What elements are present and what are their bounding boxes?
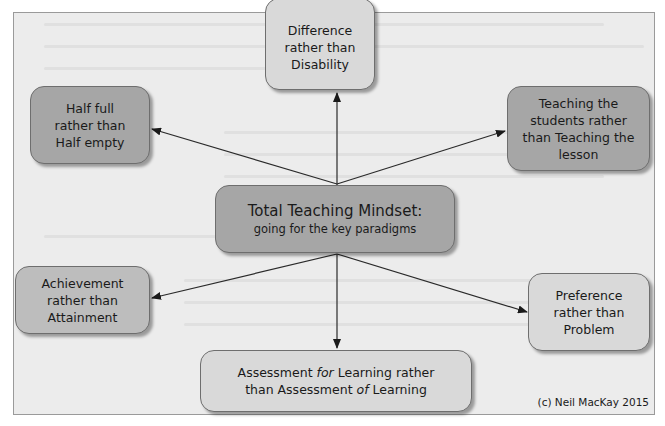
arrow-to-achievement	[152, 254, 337, 298]
node-text: students rather	[530, 112, 627, 129]
node-text: Achievement	[41, 275, 123, 292]
node-text: rather than	[55, 117, 126, 134]
node-text: Teaching the	[539, 95, 618, 112]
node-text: Difference	[288, 22, 352, 39]
node-text: Problem	[563, 321, 614, 338]
node-teaching: Teaching the students rather than Teachi…	[507, 86, 650, 171]
node-text: lesson	[559, 146, 599, 163]
text-part: Learning rather	[334, 365, 435, 380]
node-difference: Difference rather than Disability	[265, 0, 375, 90]
text-part: Assessment	[238, 365, 317, 380]
node-text: rather than	[554, 304, 625, 321]
node-preference: Preference rather than Problem	[528, 273, 650, 351]
text-part: Learning	[369, 382, 427, 397]
center-title: Total Teaching Mindset:	[248, 201, 423, 221]
node-text: rather than	[285, 39, 356, 56]
emphasis-text: of	[357, 382, 369, 397]
node-achievement: Achievement rather than Attainment	[15, 266, 150, 334]
copyright-notice: (c) Neil MacKay 2015	[538, 396, 649, 408]
arrow-to-preference	[337, 254, 527, 312]
arrow-to-teaching	[337, 131, 505, 184]
node-text: Disability	[291, 56, 349, 73]
node-text: Attainment	[48, 309, 118, 326]
node-text: Preference	[555, 287, 622, 304]
node-assessment: Assessment for Learning rather than Asse…	[200, 350, 472, 412]
node-text: Assessment for Learning rather	[238, 364, 435, 381]
node-text: than Assessment of Learning	[245, 381, 427, 398]
text-part: than Assessment	[245, 382, 356, 397]
node-text: rather than	[47, 292, 118, 309]
arrow-to-half-full	[152, 129, 337, 184]
node-text: Half full	[66, 100, 114, 117]
emphasis-text: for	[317, 365, 334, 380]
node-text: Half empty	[55, 134, 124, 151]
node-center: Total Teaching Mindset: going for the ke…	[215, 185, 455, 253]
node-text: than Teaching the	[523, 129, 635, 146]
center-subtitle: going for the key paradigms	[254, 221, 417, 238]
node-half-full: Half full rather than Half empty	[30, 86, 150, 164]
